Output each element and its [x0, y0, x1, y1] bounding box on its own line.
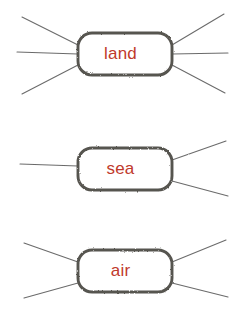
- connector-line: [172, 240, 226, 262]
- node-label-land: land: [0, 45, 241, 62]
- connector-line: [22, 65, 78, 94]
- connector-line: [24, 243, 78, 262]
- node-label-sea: sea: [0, 160, 241, 177]
- connector-line: [172, 141, 226, 160]
- connector-line: [22, 17, 78, 45]
- connector-line: [172, 181, 228, 196]
- connector-line: [172, 65, 225, 93]
- node-label-air: air: [0, 262, 241, 279]
- connector-line: [24, 283, 78, 298]
- connector-line: [172, 14, 224, 45]
- connector-line: [172, 283, 228, 297]
